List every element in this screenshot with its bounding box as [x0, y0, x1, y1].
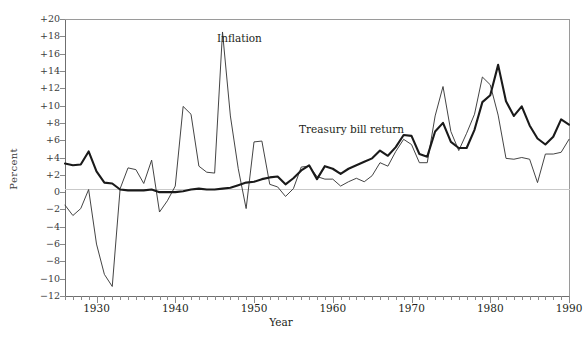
series-label-inflation: Inflation: [217, 32, 262, 44]
x-axis-title-text: Year: [269, 316, 293, 328]
series-label-treasury-bill-return: Treasury bill return: [299, 123, 404, 135]
series-line-inflation: [65, 32, 569, 287]
plot-area: [0, 0, 588, 338]
x-axis-title: Year: [0, 316, 588, 328]
chart-figure: Percent +20+18+16+14+12+10+8+6+4+20−2−4−…: [0, 0, 588, 338]
